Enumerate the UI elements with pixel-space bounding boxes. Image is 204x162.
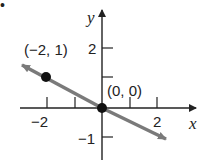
point-origin bbox=[97, 103, 107, 113]
point-label-neg2-1: (−2, 1) bbox=[24, 42, 68, 57]
point-label-origin: (0, 0) bbox=[107, 83, 142, 98]
coordinate-plane bbox=[0, 0, 204, 162]
point-neg2-1 bbox=[41, 72, 51, 82]
y-axis-label: y bbox=[87, 9, 95, 26]
tick-label-y-neg1: −1 bbox=[78, 131, 95, 146]
graph-line bbox=[22, 65, 102, 108]
x-axis-label: x bbox=[189, 115, 197, 132]
tick-label-x-neg2: −2 bbox=[31, 114, 48, 129]
tick-label-y-2: 2 bbox=[88, 41, 96, 56]
tick-label-x-2: 2 bbox=[153, 114, 161, 129]
bullet: • bbox=[0, 0, 5, 12]
